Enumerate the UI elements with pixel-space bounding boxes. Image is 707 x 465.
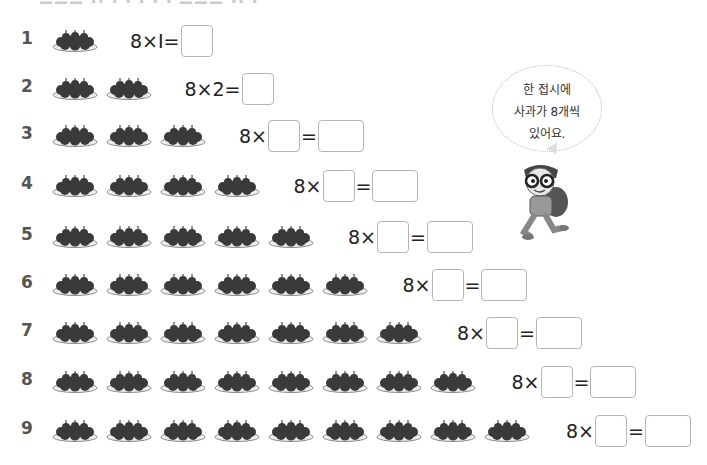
apple-plate-icon — [214, 274, 260, 296]
apple-plate-icon — [160, 175, 206, 197]
product-answer-box[interactable] — [372, 170, 418, 202]
equation-prefix: 8× — [512, 371, 540, 393]
exercise-row: 5 8×= — [0, 224, 707, 264]
apple-plate-icon — [52, 78, 98, 100]
apple-plate-icon — [160, 226, 206, 248]
apple-plate-icon — [106, 274, 152, 296]
multiplier-answer-box[interactable] — [541, 366, 573, 398]
equation-prefix: 8× — [403, 274, 431, 296]
apple-plate-icon — [214, 322, 260, 344]
equals-sign: = — [465, 274, 481, 296]
speech-bubble: 한 접시에 사과가 8개씩 있어요. — [492, 65, 602, 152]
equation: 8×= — [403, 268, 529, 302]
equals-sign: = — [410, 226, 426, 248]
apple-plate-icon — [52, 175, 98, 197]
apple-plate-icon — [322, 371, 368, 393]
exercise-row: 7 — [0, 320, 707, 360]
row-number: 8 — [21, 369, 33, 389]
apple-plate-icon — [322, 420, 368, 442]
exercise-row: 1 8×Ⅰ= — [0, 28, 707, 68]
equals-sign: = — [574, 371, 590, 393]
apple-plate-icon — [52, 322, 98, 344]
apple-plate-icon — [52, 226, 98, 248]
apple-plate-icon — [52, 30, 98, 52]
equation-prefix: 8× — [566, 420, 594, 442]
exercise-row: 4 8×= — [0, 173, 707, 213]
apple-plate-icon — [106, 371, 152, 393]
equals-sign: = — [301, 125, 317, 147]
apple-plate-icon — [52, 274, 98, 296]
row-number: 5 — [21, 224, 33, 244]
apple-plate-icon — [214, 226, 260, 248]
apple-plate-icon — [160, 371, 206, 393]
apple-plate-icon — [214, 420, 260, 442]
row-number: 1 — [21, 28, 33, 48]
apple-plate-icon — [160, 420, 206, 442]
apple-plate-icon — [52, 420, 98, 442]
apple-plate-icon — [376, 371, 422, 393]
apple-plate-icon — [322, 274, 368, 296]
apple-plate-icon — [376, 322, 422, 344]
product-answer-box[interactable] — [318, 120, 364, 152]
equation-prefix: 8×2= — [185, 78, 241, 100]
product-answer-box[interactable] — [242, 73, 274, 105]
apple-plate-icon — [268, 420, 314, 442]
apple-plate-icon — [52, 125, 98, 147]
apple-plate-icon — [268, 274, 314, 296]
multiplier-answer-box[interactable] — [486, 317, 518, 349]
equation-prefix: 8× — [457, 322, 485, 344]
apple-plate-icon — [376, 420, 422, 442]
row-number: 9 — [21, 418, 33, 438]
equals-sign: = — [356, 175, 372, 197]
row-number: 3 — [21, 123, 33, 143]
apple-plate-icon — [322, 322, 368, 344]
apple-plate-icon — [52, 371, 98, 393]
product-answer-box[interactable] — [181, 25, 213, 57]
boy-character-icon — [510, 160, 574, 242]
equation: 8×= — [512, 365, 638, 399]
apple-plate-icon — [214, 175, 260, 197]
apple-plate-icon — [268, 226, 314, 248]
equation: 8×= — [457, 316, 583, 350]
apple-plate-icon — [106, 78, 152, 100]
equation-prefix: 8× — [348, 226, 376, 248]
apple-plate-icon — [268, 322, 314, 344]
equation: 8×= — [566, 414, 692, 448]
apple-plate-icon — [106, 420, 152, 442]
product-answer-box[interactable] — [645, 415, 691, 447]
product-answer-box[interactable] — [536, 317, 582, 349]
multiplier-answer-box[interactable] — [323, 170, 355, 202]
equals-sign: = — [628, 420, 644, 442]
product-answer-box[interactable] — [481, 269, 527, 301]
multiplier-answer-box[interactable] — [377, 221, 409, 253]
apple-plate-icon — [106, 322, 152, 344]
multiplier-answer-box[interactable] — [268, 120, 300, 152]
bubble-line-1: 한 접시에 — [493, 79, 601, 101]
apple-plate-icon — [484, 420, 530, 442]
equation-prefix: 8× — [239, 125, 267, 147]
row-number: 2 — [21, 76, 33, 96]
apple-plate-icon — [160, 322, 206, 344]
product-answer-box[interactable] — [427, 221, 473, 253]
row-number: 6 — [21, 272, 33, 292]
cutoff-instruction-text: ▬▬▬ ▪▪ ▪ ▪ ▪ ▪ ▪ ▬▬▬ ▪▪ ▪ — [40, 0, 290, 4]
apple-plate-icon — [430, 371, 476, 393]
apple-plate-icon — [214, 371, 260, 393]
apple-plate-icon — [106, 226, 152, 248]
exercise-row: 8 — [0, 369, 707, 409]
bubble-line-2: 사과가 8개씩 — [493, 101, 601, 123]
equation: 8×Ⅰ= — [130, 24, 214, 58]
equation: 8×2= — [185, 72, 275, 106]
equation: 8×= — [348, 220, 474, 254]
equation: 8×= — [294, 169, 420, 203]
multiplier-answer-box[interactable] — [432, 269, 464, 301]
row-number: 7 — [21, 320, 33, 340]
apple-plate-icon — [160, 125, 206, 147]
product-answer-box[interactable] — [590, 366, 636, 398]
equation-prefix: 8× — [294, 175, 322, 197]
multiplier-answer-box[interactable] — [595, 415, 627, 447]
equation-prefix: 8×Ⅰ= — [130, 30, 180, 52]
apple-plate-icon — [430, 420, 476, 442]
apple-plate-icon — [106, 125, 152, 147]
exercise-row: 9 — [0, 418, 707, 458]
